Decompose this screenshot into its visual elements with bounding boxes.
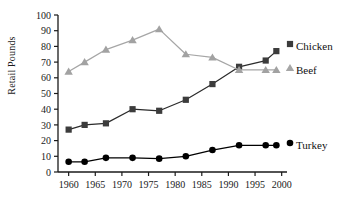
svg-text:1985: 1985 xyxy=(192,179,212,190)
series-beef xyxy=(64,25,280,75)
legend-markers xyxy=(286,41,294,146)
chart-container: Retail Pounds 0102030405060708090100 196… xyxy=(0,0,337,204)
svg-text:1980: 1980 xyxy=(165,179,185,190)
svg-text:90: 90 xyxy=(41,25,51,36)
y-axis-ticks: 0102030405060708090100 xyxy=(36,10,58,178)
svg-text:1975: 1975 xyxy=(139,179,159,190)
svg-text:1960: 1960 xyxy=(59,179,79,190)
svg-text:60: 60 xyxy=(41,72,51,83)
svg-text:0: 0 xyxy=(46,167,51,178)
legend-item-turkey: Turkey xyxy=(296,139,327,151)
svg-text:10: 10 xyxy=(41,151,51,162)
legend-marker-turkey-icon xyxy=(287,140,294,147)
line-chart-plot: 0102030405060708090100 19601965197019751… xyxy=(0,0,337,204)
legend-marker-chicken-icon xyxy=(287,41,293,47)
svg-text:50: 50 xyxy=(41,88,51,99)
legend-item-chicken: Chicken xyxy=(296,40,333,52)
svg-text:1965: 1965 xyxy=(85,179,105,190)
svg-text:1970: 1970 xyxy=(112,179,132,190)
svg-text:100: 100 xyxy=(36,10,51,21)
legend-item-beef: Beef xyxy=(296,64,317,76)
svg-text:70: 70 xyxy=(41,57,51,68)
svg-text:2000: 2000 xyxy=(272,179,292,190)
x-axis-ticks: 196019651970197519801985199019952000 xyxy=(59,172,292,190)
svg-text:1995: 1995 xyxy=(245,179,265,190)
y-axis-title: Retail Pounds xyxy=(6,11,17,121)
axis-lines xyxy=(58,15,287,172)
legend-marker-beef-icon xyxy=(286,64,294,71)
svg-text:80: 80 xyxy=(41,41,51,52)
series-turkey xyxy=(65,142,279,165)
svg-text:30: 30 xyxy=(41,120,51,131)
svg-text:20: 20 xyxy=(41,135,51,146)
svg-text:1990: 1990 xyxy=(218,179,238,190)
series-chicken xyxy=(66,48,280,133)
svg-text:40: 40 xyxy=(41,104,51,115)
data-series-group xyxy=(64,25,280,165)
